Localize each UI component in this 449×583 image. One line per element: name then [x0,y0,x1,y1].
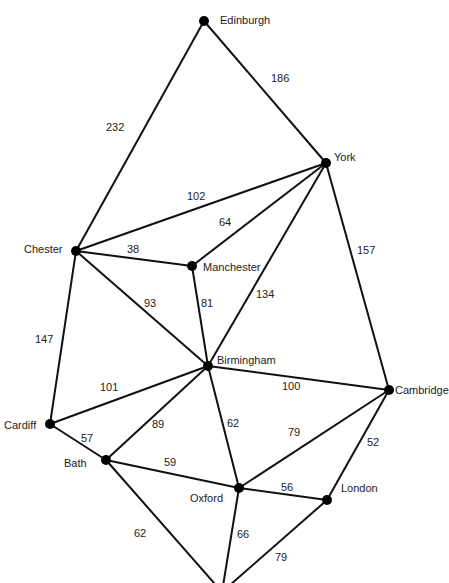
node-label-edinburgh: Edinburgh [220,15,270,26]
node-label-cambridge: Cambridge [395,385,449,396]
edge-weight: 186 [271,73,289,84]
edge-weight: 59 [164,457,176,468]
edge-weight: 102 [187,191,205,202]
node-label-oxford: Oxford [190,493,223,504]
node-edinburgh [199,16,209,26]
node-label-birmingham: Birmingham [217,355,276,366]
node-label-bath: Bath [64,458,87,469]
node-york [321,158,331,168]
edge-cardiff-bath [50,424,106,460]
edge-weight: 79 [275,552,287,563]
edge-london-bottom [222,500,327,583]
node-label-london: London [341,483,378,494]
edge-weight: 101 [100,382,118,393]
edge-weight: 79 [288,427,300,438]
node-label-cardiff: Cardiff [4,420,36,431]
edge-weight: 157 [357,245,375,256]
edge-weight: 66 [237,529,249,540]
node-oxford [234,483,244,493]
node-birmingham [203,361,213,371]
node-label-york: York [334,152,356,163]
edge-birmingham-bath [106,366,208,460]
edge-weight: 147 [35,334,53,345]
edge-york-chester [76,163,326,251]
edge-weight: 232 [106,122,124,133]
node-chester [71,246,81,256]
edge-weight: 38 [127,244,139,255]
edge-weight: 89 [152,419,164,430]
edge-edinburgh-york [204,21,326,163]
edge-york-manchester [192,163,326,266]
edge-weight: 62 [134,528,146,539]
edge-weight: 56 [281,482,293,493]
node-cardiff [45,419,55,429]
node-label-chester: Chester [24,244,63,255]
edge-manchester-birmingham [192,266,208,366]
node-london [322,495,332,505]
node-cambridge [384,385,394,395]
edge-weight: 64 [219,217,231,228]
edge-weight: 100 [282,381,300,392]
edge-weight: 134 [256,289,274,300]
edge-birmingham-cardiff [50,366,208,424]
edge-chester-cardiff [50,251,76,424]
node-label-manchester: Manchester [203,262,260,273]
edge-weight: 81 [201,298,213,309]
edge-weight: 62 [227,418,239,429]
edge-weight: 52 [367,437,379,448]
edge-weight: 57 [81,433,93,444]
edge-bath-bottom [106,460,222,583]
node-manchester [187,261,197,271]
node-bath [101,455,111,465]
edge-york-cambridge [326,163,389,390]
edge-weight: 93 [144,298,156,309]
edge-edinburgh-chester [76,21,204,251]
